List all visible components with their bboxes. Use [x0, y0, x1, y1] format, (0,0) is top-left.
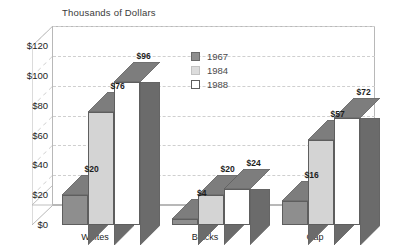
bar-side-face [140, 82, 160, 245]
bar-chart-3d: Thousands of Dollars $0$20$40$60$80$100$… [0, 0, 398, 245]
bar-whites-1967 [62, 195, 88, 225]
legend-item-1984: 1984 [191, 64, 228, 77]
bar-front-face [114, 82, 140, 225]
bar-front-face [198, 195, 224, 225]
bar-side-face [360, 118, 380, 245]
legend-swatch-1967 [191, 52, 200, 61]
chart-title: Thousands of Dollars [62, 7, 156, 18]
legend-label-1988: 1988 [207, 79, 228, 90]
bar-value-label-gap-1984: $57 [331, 109, 345, 119]
bar-front-face [308, 140, 334, 225]
bar-front-face [282, 201, 308, 225]
bar-gap-1988 [334, 118, 360, 225]
legend-swatch-1988 [191, 80, 200, 89]
bar-gap-1984 [308, 140, 334, 225]
y-tick-label-120: $120 [27, 40, 48, 51]
bar-value-label-gap-1967: $16 [305, 170, 319, 180]
legend-label-1984: 1984 [207, 65, 228, 76]
y-tick-label-20: $20 [32, 189, 48, 200]
bar-value-label-whites-1984: $76 [111, 81, 125, 91]
gridline-120 [53, 26, 375, 27]
y-tick-label-100: $100 [27, 70, 48, 81]
legend-item-1988: 1988 [191, 78, 228, 91]
bar-front-face [224, 189, 250, 225]
bar-blacks-1967 [172, 219, 198, 225]
bar-blacks-1984 [198, 195, 224, 225]
legend-item-1967: 1967 [191, 50, 228, 63]
bar-value-label-whites-1967: $20 [85, 164, 99, 174]
bar-front-face [172, 219, 198, 225]
chart-legend: 1967 1984 1988 [191, 50, 228, 92]
bar-blacks-1988 [224, 189, 250, 225]
bar-gap-1967 [282, 201, 308, 225]
legend-label-1967: 1967 [207, 51, 228, 62]
y-tick-label-60: $60 [32, 130, 48, 141]
bar-front-face [334, 118, 360, 225]
y-tick-label-40: $40 [32, 159, 48, 170]
bar-value-label-blacks-1967: $4 [197, 188, 206, 198]
legend-swatch-1984 [191, 66, 200, 75]
bar-front-face [62, 195, 88, 225]
bar-value-label-blacks-1988: $24 [247, 158, 261, 168]
bar-value-label-gap-1988: $72 [357, 87, 371, 97]
y-axis-labels: $0$20$40$60$80$100$120 [0, 0, 48, 245]
bar-side-face [250, 189, 270, 245]
bar-value-label-blacks-1984: $20 [221, 164, 235, 174]
bar-whites-1988 [114, 82, 140, 225]
bar-value-label-whites-1988: $96 [137, 51, 151, 61]
y-tick-label-0: $0 [37, 219, 48, 230]
y-tick-label-80: $80 [32, 100, 48, 111]
bar-top-face [114, 62, 160, 82]
